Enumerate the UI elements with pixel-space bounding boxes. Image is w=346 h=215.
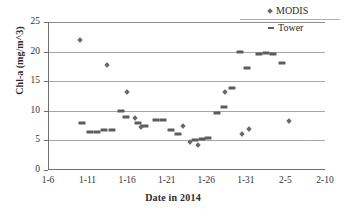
data-point-tower-3 bbox=[101, 128, 108, 131]
x-axis-title: Date in 2014 bbox=[0, 192, 346, 203]
data-point-tower-9 bbox=[152, 119, 159, 122]
legend-item-modis: MODIS bbox=[254, 4, 340, 18]
x-tick-label-1-11: 1-11 bbox=[79, 176, 96, 186]
data-point-tower-17 bbox=[220, 105, 227, 108]
data-point-tower-1 bbox=[86, 130, 93, 133]
y-tick-mark-15 bbox=[44, 81, 48, 82]
x-tick-label-1-16: 1-16 bbox=[118, 176, 135, 186]
data-point-tower-2 bbox=[94, 130, 101, 133]
data-point-tower-24 bbox=[279, 62, 286, 65]
data-point-tower-4 bbox=[109, 128, 116, 131]
modis-diamond-marker-icon bbox=[267, 8, 273, 14]
data-point-tower-16 bbox=[213, 111, 220, 114]
data-point-tower-6 bbox=[122, 115, 129, 118]
plot-area bbox=[48, 22, 325, 170]
y-axis-title: Chl-a (mg/m^3) bbox=[14, 0, 25, 131]
y-tick-label-5: 5 bbox=[0, 135, 40, 145]
y-tick-mark-5 bbox=[44, 140, 48, 141]
y-tick-mark-25 bbox=[44, 22, 48, 23]
legend-label-modis: MODIS bbox=[276, 5, 308, 17]
data-point-tower-21 bbox=[255, 52, 262, 55]
data-point-tower-22 bbox=[262, 51, 269, 54]
chart-legend: MODIS Tower bbox=[254, 4, 340, 35]
data-point-tower-7 bbox=[135, 122, 142, 125]
data-point-tower-12 bbox=[174, 132, 181, 135]
data-point-tower-15 bbox=[204, 137, 211, 140]
y-tick-mark-10 bbox=[44, 111, 48, 112]
data-point-tower-10 bbox=[159, 119, 166, 122]
data-point-tower-18 bbox=[229, 87, 236, 90]
tower-dash-marker-icon bbox=[268, 27, 274, 30]
x-tick-label-2-10: 2-10 bbox=[316, 176, 333, 186]
data-point-tower-8 bbox=[142, 124, 149, 127]
x-tick-label-1-6: 1-6 bbox=[42, 176, 55, 186]
legend-divider bbox=[240, 19, 340, 20]
gridline-y-20 bbox=[49, 52, 325, 53]
data-point-tower-20 bbox=[244, 66, 251, 69]
y-tick-label-0: 0 bbox=[0, 165, 40, 175]
x-tick-label-2-5: 2-5 bbox=[279, 176, 292, 186]
legend-label-tower: Tower bbox=[278, 22, 303, 34]
data-point-tower-5 bbox=[117, 110, 124, 113]
data-point-tower-11 bbox=[167, 129, 174, 132]
y-tick-mark-20 bbox=[44, 52, 48, 53]
gridline-y-10 bbox=[49, 111, 325, 112]
chart-figure: 0510152025 1-61-111-161-211-261-312-52-1… bbox=[0, 0, 346, 215]
gridline-y-15 bbox=[49, 81, 325, 82]
y-tick-mark-0 bbox=[44, 170, 48, 171]
x-tick-label-1-26: 1-26 bbox=[198, 176, 215, 186]
x-tick-label-1-21: 1-21 bbox=[158, 176, 175, 186]
data-point-tower-0 bbox=[79, 121, 86, 124]
data-point-tower-19 bbox=[237, 51, 244, 54]
legend-item-tower: Tower bbox=[254, 21, 340, 35]
x-tick-label-1-31: 1-31 bbox=[237, 176, 254, 186]
data-point-tower-23 bbox=[269, 52, 276, 55]
